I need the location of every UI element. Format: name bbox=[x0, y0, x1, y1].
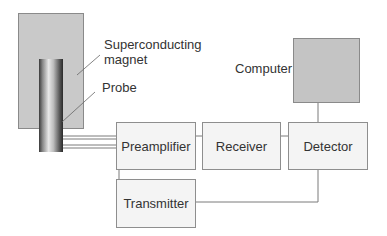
magnet-label-line1: Superconducting bbox=[104, 37, 202, 52]
detector-label: Detector bbox=[303, 139, 352, 154]
magnet-label-line2: magnet bbox=[104, 52, 202, 67]
detector-block: Detector bbox=[288, 122, 368, 170]
receiver-label: Receiver bbox=[216, 139, 267, 154]
transmitter-label: Transmitter bbox=[123, 196, 188, 211]
transmitter-block: Transmitter bbox=[116, 179, 196, 228]
magnet-label: Superconducting magnet bbox=[104, 37, 202, 67]
probe-label: Probe bbox=[102, 80, 137, 95]
preamplifier-block: Preamplifier bbox=[116, 122, 196, 170]
receiver-block: Receiver bbox=[202, 122, 281, 170]
computer-box bbox=[293, 38, 360, 103]
preamplifier-label: Preamplifier bbox=[121, 139, 190, 154]
computer-label: Computer bbox=[235, 61, 292, 76]
